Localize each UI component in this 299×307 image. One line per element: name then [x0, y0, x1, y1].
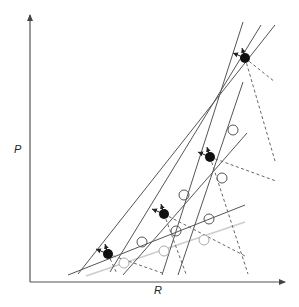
hollow-circle-marker — [228, 125, 238, 135]
y-axis-label: P — [14, 143, 21, 155]
faint-circles-group — [119, 235, 209, 268]
hollow-circle-marker — [217, 173, 227, 183]
dashed-line — [210, 157, 248, 274]
filled-dot-marker — [159, 209, 169, 219]
dashed-line — [245, 58, 275, 82]
solid-line — [68, 205, 245, 275]
diagram-canvas — [0, 0, 299, 307]
dashed-line — [210, 157, 276, 181]
faint-circle-marker — [159, 246, 169, 256]
filled-dot-marker — [205, 152, 215, 162]
solid-line — [178, 82, 243, 275]
solid-line — [110, 25, 261, 272]
faint-circle-marker — [199, 235, 209, 245]
dashed-line — [245, 58, 275, 161]
dashed-line — [108, 254, 165, 274]
dashed-lines-group — [108, 58, 276, 274]
filled-dot-marker — [103, 249, 113, 259]
faint-circle-marker — [119, 258, 129, 268]
x-axis-label: R — [154, 284, 162, 296]
filled-dot-marker — [240, 53, 250, 63]
dashed-line — [164, 214, 186, 274]
